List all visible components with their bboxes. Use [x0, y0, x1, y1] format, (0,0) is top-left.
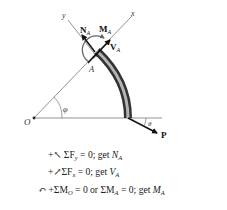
- free-body-diagram: y x NA MA VA A φ O θ P: [0, 0, 227, 146]
- curved-member: [97, 51, 128, 118]
- normal-force-label: NA: [80, 25, 91, 36]
- x-axis-label: x: [130, 9, 135, 18]
- origin-point: [33, 117, 36, 120]
- theta-label: θ: [148, 120, 152, 128]
- phi-angle-arc: [54, 97, 62, 118]
- origin-label: O: [24, 117, 31, 127]
- moment-label: MA: [99, 24, 112, 35]
- force-p-arrow: [128, 118, 157, 133]
- force-p-label: P: [161, 130, 167, 140]
- point-a-label: A: [88, 64, 95, 74]
- theta-angle-arc: [144, 118, 146, 126]
- y-axis-label: y: [61, 11, 66, 20]
- shear-force-label: VA: [110, 42, 121, 53]
- equation-sum-moments: ↶ +ΣMO = 0 or ΣMA = 0; get MA: [38, 181, 165, 202]
- phi-label: φ: [63, 104, 68, 114]
